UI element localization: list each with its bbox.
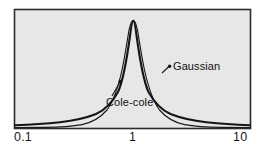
figure-container: Gaussian Cole-cole 0.1 1 10 bbox=[0, 0, 267, 151]
cole-cole-leader-dot bbox=[119, 80, 122, 83]
plot-svg: Gaussian Cole-cole bbox=[0, 0, 267, 151]
x-tick-label-middle: 1 bbox=[129, 131, 136, 144]
x-tick-label-left: 0.1 bbox=[14, 131, 32, 144]
gaussian-label: Gaussian bbox=[173, 60, 220, 72]
cole-cole-label: Cole-cole bbox=[106, 96, 153, 108]
gaussian-leader-dot bbox=[168, 65, 171, 68]
x-tick-label-right: 10 bbox=[233, 131, 247, 144]
